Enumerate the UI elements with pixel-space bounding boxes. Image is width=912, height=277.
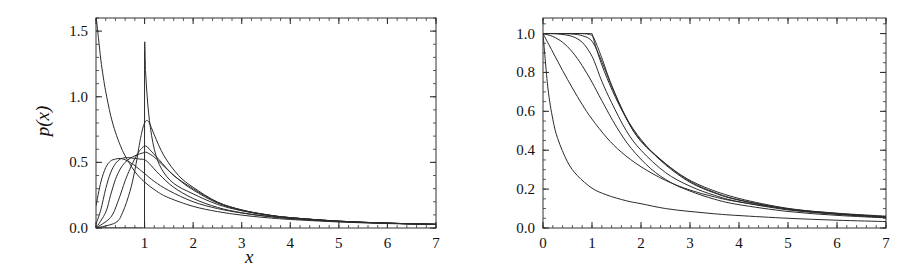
ccdf-plot-svg: 012345670.00.20.40.60.81.0 (456, 0, 912, 277)
svg-text:5: 5 (784, 235, 792, 251)
svg-text:7: 7 (432, 235, 440, 251)
curve-curve-5-peak-062 (96, 146, 436, 228)
svg-text:3: 3 (686, 235, 694, 251)
panel-ccdf: 012345670.00.20.40.60.81.0 P>(x) x (456, 0, 912, 277)
x-axis-label-pdf: x (245, 246, 253, 268)
svg-text:0.8: 0.8 (516, 64, 535, 80)
svg-text:7: 7 (882, 235, 890, 251)
svg-text:0.2: 0.2 (516, 181, 535, 197)
svg-text:2: 2 (637, 235, 645, 251)
svg-text:1.0: 1.0 (69, 89, 88, 105)
curve-curve-7-peak-135-sharp (96, 42, 436, 241)
panel-pdf: 12345670.00.51.01.5 p(x) x (0, 0, 456, 277)
pdf-plot-svg: 12345670.00.51.01.5 (0, 0, 456, 277)
svg-text:2: 2 (189, 235, 197, 251)
svg-text:0.6: 0.6 (516, 103, 535, 119)
svg-text:0.5: 0.5 (69, 154, 88, 170)
svg-text:0.4: 0.4 (516, 142, 535, 158)
svg-text:1: 1 (141, 235, 149, 251)
svg-text:4: 4 (287, 235, 295, 251)
y-axis-label-pdf: p(x) (32, 76, 54, 166)
curve-curve-6-peak-082 (96, 120, 436, 228)
svg-text:6: 6 (833, 235, 841, 251)
svg-text:1.5: 1.5 (69, 23, 88, 39)
svg-text:0.0: 0.0 (69, 220, 88, 236)
svg-text:4: 4 (735, 235, 743, 251)
figure-container: 12345670.00.51.01.5 p(x) x 012345670.00.… (0, 0, 912, 277)
svg-text:1: 1 (588, 235, 596, 251)
svg-text:6: 6 (384, 235, 392, 251)
svg-text:5: 5 (335, 235, 343, 251)
svg-text:0.0: 0.0 (516, 220, 535, 236)
svg-text:1.0: 1.0 (516, 26, 535, 42)
svg-text:0: 0 (539, 235, 547, 251)
